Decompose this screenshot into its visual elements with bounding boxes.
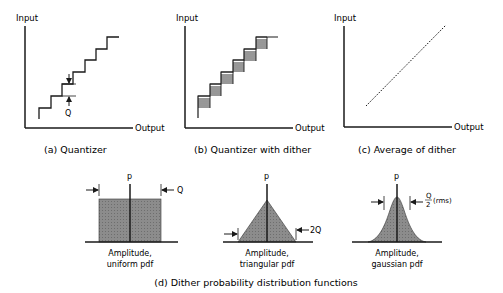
uniform-pdf: p Q Amplitude, uniform pdf	[85, 172, 183, 269]
panel-quantizer-with-dither: Input Output (b) Quantizer wi	[176, 13, 325, 155]
y-axis-label: Input	[334, 13, 357, 23]
caption-line2: uniform pdf	[107, 260, 154, 269]
caption-c: (c) Average of dither	[358, 144, 456, 155]
caption-line1: Amplitude,	[375, 249, 419, 258]
x-axis-label: Output	[454, 122, 484, 132]
width-label-suffix: (rms)	[433, 197, 452, 205]
panel-pdfs: p Q Amplitude, uniform pdf p 2Q Amplitud…	[85, 172, 452, 288]
caption-a: (a) Quantizer	[44, 144, 107, 155]
caption-b: (b) Quantizer with dither	[194, 144, 311, 155]
width-label: 2Q	[310, 226, 321, 235]
axis-label: p	[394, 172, 399, 181]
width-label-den: 2	[426, 201, 430, 209]
dither-diagram: Input Output Q (a) Quantizer Input Outpu…	[0, 0, 503, 293]
width-label-num: Q	[426, 192, 432, 200]
y-axis-label: Input	[176, 13, 199, 23]
gaussian-pdf: p Q 2 (rms) Amplitude, gaussian pdf	[352, 172, 452, 269]
width-label: Q	[177, 186, 183, 195]
panel-average-of-dither: Input Output (c) Average of dither	[334, 13, 484, 155]
axis-label: p	[264, 172, 269, 181]
quantizer-staircase	[39, 37, 119, 119]
axis-label: p	[127, 172, 132, 181]
step-label: Q	[65, 109, 71, 118]
y-axis-label: Input	[16, 13, 39, 23]
x-axis-label: Output	[295, 123, 325, 133]
caption-line1: Amplitude,	[245, 249, 289, 258]
triangular-pdf: p 2Q Amplitude, triangular pdf	[223, 172, 321, 269]
caption-line2: triangular pdf	[240, 260, 295, 269]
caption-line2: gaussian pdf	[371, 260, 422, 269]
caption-line1: Amplitude,	[108, 249, 152, 258]
panel-quantizer: Input Output Q (a) Quantizer	[16, 13, 165, 155]
average-line	[366, 25, 446, 106]
x-axis-label: Output	[135, 123, 165, 133]
caption-d: (d) Dither probability distribution func…	[154, 277, 358, 288]
